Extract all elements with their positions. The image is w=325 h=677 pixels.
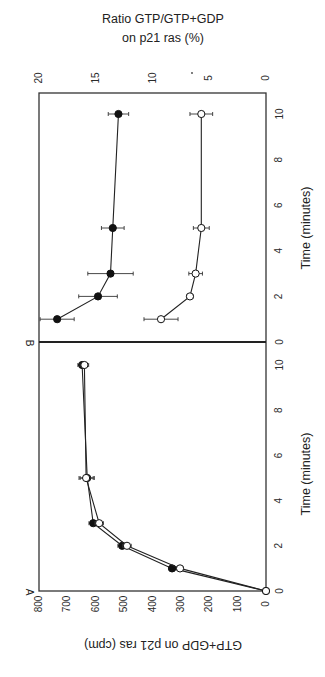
panel-label-a: A bbox=[24, 589, 35, 596]
open-circle-marker bbox=[157, 316, 164, 323]
y-tick-label-a: 600 bbox=[90, 595, 101, 612]
x-tick-label: 4 bbox=[274, 497, 285, 503]
stray-mark bbox=[191, 72, 193, 74]
y-tick-label-a: 0 bbox=[260, 601, 271, 607]
panel-a-plot bbox=[78, 361, 270, 594]
open-circle-marker bbox=[176, 565, 183, 572]
y-tick-label-a: 100 bbox=[232, 595, 243, 612]
open-circle-marker bbox=[186, 293, 193, 300]
y-tick-label-b: 5 bbox=[203, 75, 214, 81]
x-tick-label: 6 bbox=[274, 202, 285, 208]
filled-circle-marker bbox=[107, 270, 114, 277]
y-axis-b-title-line1: Ratio GTP/GTP+GDP bbox=[102, 12, 224, 26]
y-tick-label-b: 15 bbox=[90, 72, 101, 84]
series-line bbox=[82, 365, 266, 591]
y-tick-label-a: 200 bbox=[203, 595, 214, 612]
x-tick-label: 4 bbox=[274, 248, 285, 254]
open-circle-marker bbox=[83, 474, 90, 481]
y-tick-label-b: 0 bbox=[260, 75, 271, 81]
x-tick-label: 6 bbox=[274, 452, 285, 458]
y-tick-label-b: 20 bbox=[33, 72, 44, 84]
x-tick-label: 0 bbox=[274, 339, 285, 345]
series-line bbox=[161, 114, 201, 319]
x-tick-label: 10 bbox=[274, 359, 285, 371]
x-tick-label: 8 bbox=[274, 156, 285, 162]
y-axis-a-title: GTP+GDP on p21 ras (cpm) bbox=[84, 638, 242, 652]
y-tick-label-a: 300 bbox=[175, 595, 186, 612]
open-circle-marker bbox=[198, 110, 205, 117]
panel-b-plot bbox=[40, 110, 213, 322]
filled-circle-marker bbox=[109, 224, 116, 231]
y-tick-label-a: 800 bbox=[33, 595, 44, 612]
series-line bbox=[57, 114, 118, 319]
open-circle-marker bbox=[198, 224, 205, 231]
figure: Ratio GTP/GTP+GDP on p21 ras (%) GTP+GDP… bbox=[0, 0, 325, 677]
filled-circle-marker bbox=[54, 316, 61, 323]
y-axis-b-title-line2: on p21 ras (%) bbox=[122, 31, 204, 45]
filled-circle-marker bbox=[94, 293, 101, 300]
open-circle-marker bbox=[123, 542, 130, 549]
filled-circle-marker bbox=[115, 110, 122, 117]
x-tick-label: 10 bbox=[274, 108, 285, 120]
y-tick-label-b: 10 bbox=[147, 72, 158, 84]
x-tick-label: 8 bbox=[274, 407, 285, 413]
x-axis-title-a: Time (minutes) bbox=[299, 433, 313, 516]
x-tick-label: 2 bbox=[274, 293, 285, 299]
series-line bbox=[84, 365, 266, 591]
open-circle-marker bbox=[262, 587, 269, 594]
open-circle-marker bbox=[96, 520, 103, 527]
x-tick-label: 0 bbox=[274, 588, 285, 594]
panel-label-b: B bbox=[24, 340, 35, 347]
x-tick-label: 2 bbox=[274, 543, 285, 549]
y-tick-label-a: 500 bbox=[118, 595, 129, 612]
open-circle-marker bbox=[81, 361, 88, 368]
y-tick-label-a: 400 bbox=[147, 595, 158, 612]
x-axis-title-b: Time (minutes) bbox=[299, 187, 313, 270]
open-circle-marker bbox=[192, 270, 199, 277]
y-tick-label-a: 700 bbox=[61, 595, 72, 612]
